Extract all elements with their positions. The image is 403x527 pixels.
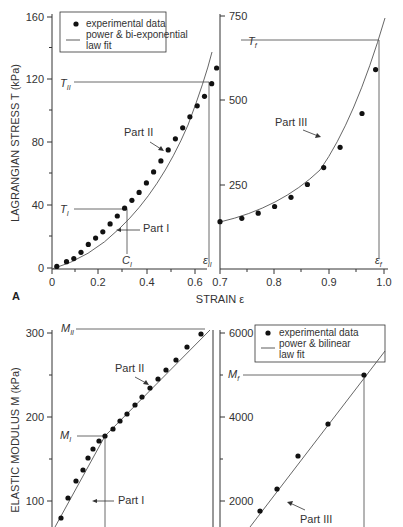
x-tick-label: 0.4 <box>139 276 154 288</box>
part-i-label: Part I <box>118 494 144 506</box>
y-tick-label: 750 <box>229 10 247 22</box>
data-point <box>373 67 378 72</box>
data-point <box>100 229 105 234</box>
x-tick-label: 0.8 <box>266 276 281 288</box>
data-point <box>73 478 78 483</box>
data-point <box>115 213 120 218</box>
data-point <box>144 180 149 185</box>
data-point <box>86 242 91 247</box>
y-tick-label: 300 <box>26 327 44 339</box>
part-ii-arrowhead-icon <box>158 146 164 151</box>
legend-marker-icon <box>265 330 270 335</box>
m-i-label: MI <box>60 429 71 443</box>
data-point <box>187 114 192 119</box>
part-i-arrowhead-icon <box>92 499 97 503</box>
data-point <box>64 259 69 264</box>
data-point <box>65 495 70 500</box>
data-point <box>96 438 101 443</box>
panel-b: 300200100600040002000 experimental data … <box>9 322 385 527</box>
legend-data-label: experimental data <box>86 18 166 29</box>
data-point <box>180 125 185 130</box>
data-point <box>139 394 144 399</box>
t-ii-label: TII <box>60 77 71 91</box>
data-point <box>163 367 168 372</box>
x-tick-label: 0.6 <box>187 276 202 288</box>
x-tick-label: 0.7 <box>212 276 227 288</box>
x-tick-label: 0.2 <box>90 276 105 288</box>
x-tick-label: 1.0 <box>376 276 391 288</box>
data-point <box>158 158 163 163</box>
y-tick-label: 100 <box>26 495 44 507</box>
data-point <box>184 344 189 349</box>
data-point <box>71 256 76 261</box>
data-point <box>173 136 178 141</box>
eps-f-label: εf <box>375 254 383 268</box>
y-tick-label: 120 <box>26 73 44 85</box>
c-i-label: CI <box>122 254 132 268</box>
part-ii-arrow-icon <box>135 377 146 383</box>
y-tick-label: 80 <box>32 136 44 148</box>
panel-a-data-points <box>54 65 378 269</box>
data-point <box>155 376 160 381</box>
legend-fit-label-2: law fit <box>86 40 112 51</box>
y-tick-label: 2000 <box>229 495 253 507</box>
part-iii-label: Part III <box>275 116 307 128</box>
data-point <box>202 94 207 99</box>
data-point <box>321 165 326 170</box>
data-point <box>137 190 142 195</box>
data-point <box>147 385 152 390</box>
data-point <box>239 216 244 221</box>
y-tick-label: 250 <box>229 179 247 191</box>
data-point <box>338 145 343 150</box>
panel-a-y-axis-title: LAGRANGIAN STRESS T (kPa) <box>9 64 21 222</box>
part-ii-arrow-icon <box>150 142 161 149</box>
part-i-label: Part I <box>143 222 169 234</box>
data-point <box>129 198 134 203</box>
y-tick-label: 200 <box>26 411 44 423</box>
legend-data-label: experimental data <box>279 327 359 338</box>
y-tick-label: 0 <box>38 262 44 274</box>
data-point <box>361 372 366 377</box>
panel-a-x-axis-title: STRAIN ε <box>196 293 244 305</box>
part-ii-label: Part II <box>124 126 153 138</box>
data-point <box>209 81 214 86</box>
data-point <box>325 421 330 426</box>
data-point <box>78 250 83 255</box>
data-point <box>272 204 277 209</box>
data-point <box>274 486 279 491</box>
data-point <box>359 111 364 116</box>
data-point <box>198 331 203 336</box>
data-point <box>173 357 178 362</box>
data-point <box>108 221 113 226</box>
data-point <box>117 418 122 423</box>
data-point <box>58 515 63 520</box>
data-point <box>93 236 98 241</box>
data-point <box>90 446 95 451</box>
data-point <box>257 508 262 513</box>
part-iii-arrow-icon <box>290 503 305 510</box>
data-point <box>305 182 310 187</box>
part-ii-arrowhead-icon <box>143 380 149 385</box>
data-point <box>124 411 129 416</box>
data-point <box>151 169 156 174</box>
m-f-label: Mf <box>228 368 240 382</box>
y-tick-label: 500 <box>229 94 247 106</box>
data-point <box>214 65 219 70</box>
y-tick-label: 4000 <box>229 411 253 423</box>
data-point <box>110 426 115 431</box>
figure-canvas: 0408012016025050075000.20.40.60.70.80.91… <box>0 0 403 527</box>
panel-b-y-axis-title: ELASTIC MODULUS M (kPa) <box>9 367 21 512</box>
panel-a-label: A <box>12 290 20 302</box>
data-point <box>85 455 90 460</box>
legend-fit-label-2: law fit <box>279 349 305 360</box>
data-point <box>80 467 85 472</box>
m-ii-label: MII <box>61 322 74 336</box>
t-f-label: Tf <box>248 35 258 49</box>
data-point <box>132 402 137 407</box>
data-point <box>217 219 222 224</box>
part-iii-label: Part III <box>300 513 332 525</box>
data-point <box>54 264 59 269</box>
y-tick-label: 6000 <box>229 327 253 339</box>
x-tick-label: 0 <box>49 276 55 288</box>
data-point <box>166 147 171 152</box>
